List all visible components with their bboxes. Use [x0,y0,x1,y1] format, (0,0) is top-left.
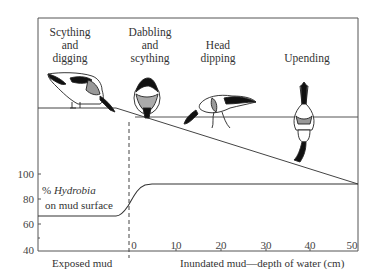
y-axis-label: % Hydrobia [42,184,96,197]
x-axis-left-label: Exposed mud [52,257,112,270]
label-head-dipping: Head dipping [186,39,250,65]
y-tick-40: 40 [12,244,34,256]
shelduck-scything-icon [48,73,115,112]
label-dabbling-and-scything: Dabbling and scything [114,26,186,65]
y-tick-60: 60 [12,218,34,230]
x-tick-50: 50 [342,239,362,251]
label-line: dipping [186,52,250,65]
label-line: and [114,39,186,52]
label-upending: Upending [272,52,342,65]
y-axis-label-suffix: on mud surface [45,199,113,212]
x-tick-40: 40 [300,239,320,251]
x-axis-right-label: Inundated mud—depth of water (cm) [180,257,344,270]
label-line: digging [34,52,106,65]
label-line: Upending [272,52,342,65]
label-line: and [34,39,106,52]
y-axis-label-prefix: % [42,184,51,196]
label-line: Head [186,39,250,52]
y-tick-80: 80 [12,193,34,205]
x-tick-10: 10 [166,239,186,251]
y-tick-100: 100 [12,168,34,180]
label-scything-and-digging: Scything and digging [34,26,106,65]
shelduck-feeding-diagram: Scything and digging Dabbling and scythi… [0,0,381,278]
x-tick-0: 0 [124,239,144,251]
label-line: Scything [34,26,106,39]
label-line: scything [114,52,186,65]
shelduck-head-dipping-icon [184,95,256,128]
y-axis-label-species: Hydrobia [54,184,96,196]
shelduck-upending-icon [294,82,314,162]
x-tick-20: 20 [211,239,231,251]
label-line: Dabbling [114,26,186,39]
x-tick-30: 30 [256,239,276,251]
shelduck-dabbling-icon [134,78,160,118]
